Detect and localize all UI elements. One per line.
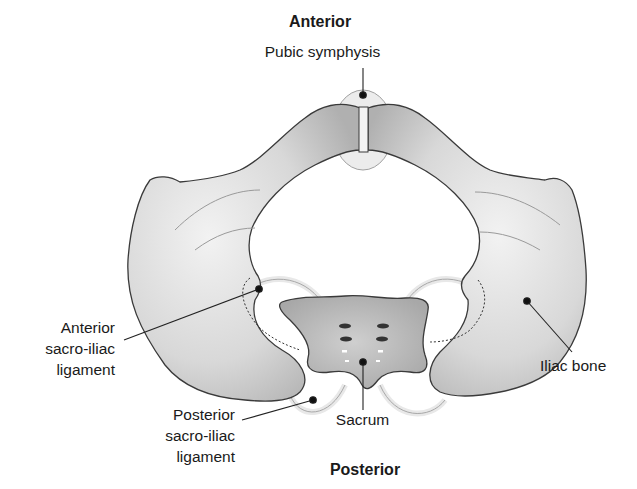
anterior-label: Anterior: [280, 12, 360, 31]
iliac-bone-label: Iliac bone: [540, 356, 606, 375]
pelvis-diagram: [0, 0, 637, 489]
posterior-si-ligament-label: Posterior sacro-iliac ligament: [145, 404, 235, 467]
anterior-si-dot: [256, 286, 263, 293]
iliac-bone-dot: [524, 298, 531, 305]
label-line: sacro-iliac: [145, 425, 235, 446]
label-line: Anterior: [30, 317, 115, 338]
posterior-si-dot: [310, 397, 317, 404]
symphysis-cartilage: [359, 107, 368, 152]
pubic-symphysis-dot: [360, 92, 367, 99]
posterior-label: Posterior: [320, 460, 410, 479]
anterior-si-ligament-label: Anterior sacro-iliac ligament: [30, 317, 115, 380]
label-line: Posterior: [145, 404, 235, 425]
pubic-symphysis-label: Pubic symphysis: [255, 42, 390, 61]
label-line: ligament: [145, 446, 235, 467]
sacrum-dot: [360, 359, 367, 366]
sacrum-label: Sacrum: [325, 410, 400, 429]
label-line: ligament: [30, 359, 115, 380]
label-line: sacro-iliac: [30, 338, 115, 359]
